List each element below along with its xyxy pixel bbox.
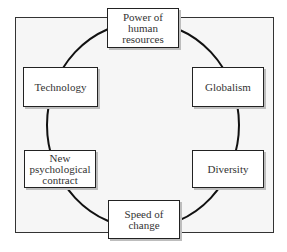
node-label: Speed of change (125, 209, 164, 231)
node-diversity: Diversity (192, 150, 264, 188)
node-speed-of-change: Speed of change (108, 200, 180, 239)
node-label: Technology (35, 82, 87, 93)
node-technology: Technology (23, 67, 98, 107)
node-power-of-human-resources: Power of human resources (107, 8, 179, 48)
node-new-psychological-contract: New psychological contract (24, 150, 96, 188)
node-label: Diversity (208, 164, 249, 175)
node-globalism: Globalism (192, 67, 264, 107)
node-label: Globalism (205, 82, 251, 93)
node-label: New psychological contract (29, 153, 90, 186)
node-label: Power of human resources (122, 12, 164, 45)
